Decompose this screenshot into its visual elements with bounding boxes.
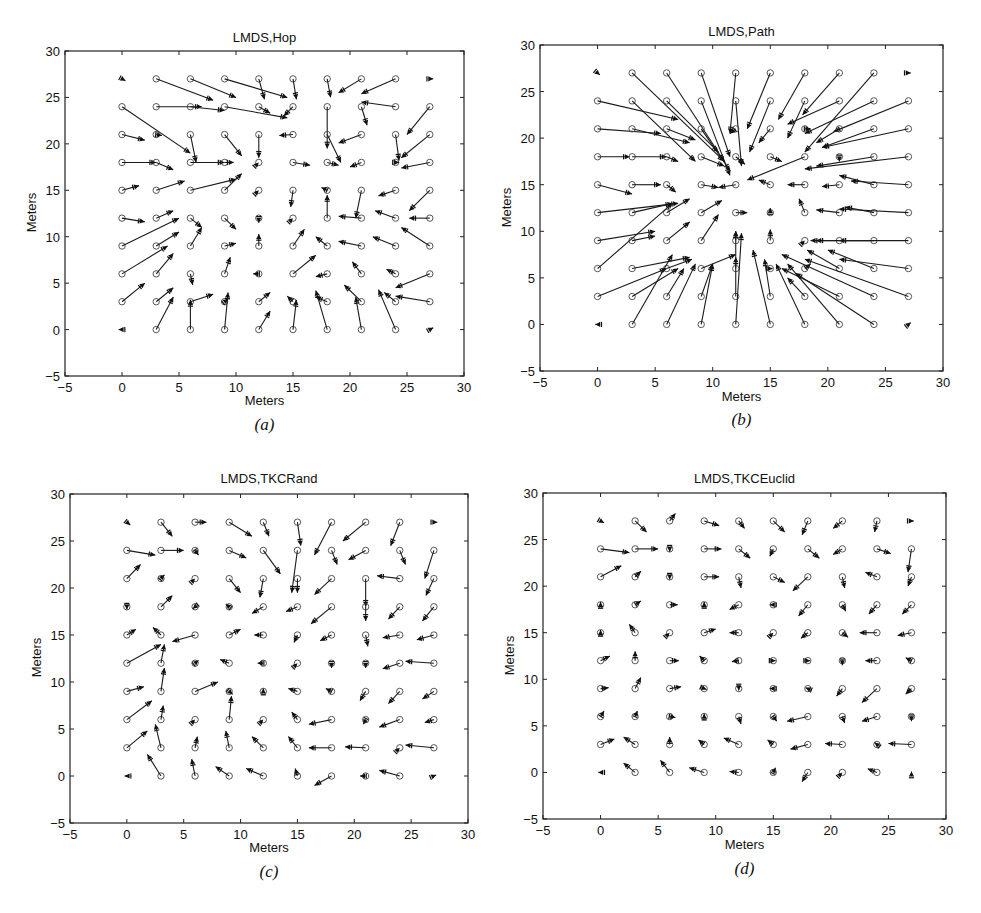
x-tick-label: 0 xyxy=(597,823,604,838)
arrowhead-icon xyxy=(841,583,846,588)
arrowhead-icon xyxy=(598,770,603,775)
y-tick-label: 20 xyxy=(524,579,538,594)
y-tick-label: 0 xyxy=(531,765,538,780)
x-tick-label: 15 xyxy=(766,823,780,838)
x-tick-label: 20 xyxy=(824,823,838,838)
arrowhead-icon xyxy=(737,583,742,588)
panel-d-plot: −5051015202530−5051015202530 xyxy=(0,0,981,913)
arrowhead-icon xyxy=(791,745,797,750)
arrowhead-icon xyxy=(598,630,603,635)
x-tick-label: 30 xyxy=(939,823,953,838)
arrowhead-icon xyxy=(909,771,914,776)
arrowhead-icon xyxy=(730,769,735,774)
arrowhead-icon xyxy=(873,527,878,532)
arrowhead-icon xyxy=(716,546,721,551)
arrowhead-icon xyxy=(667,547,672,552)
arrowhead-icon xyxy=(898,632,903,637)
x-tick-label: 25 xyxy=(881,823,895,838)
arrowhead-icon xyxy=(702,714,707,719)
arrowhead-icon xyxy=(888,741,893,746)
arrowhead-icon xyxy=(771,658,776,663)
arrowhead-icon xyxy=(676,685,681,690)
axes-frame xyxy=(543,493,946,819)
arrowhead-icon xyxy=(730,630,735,635)
error-vectors xyxy=(597,513,914,781)
x-tick-label: 10 xyxy=(708,823,722,838)
arrowhead-icon xyxy=(673,602,678,607)
arrowhead-icon xyxy=(885,549,891,554)
panel-d-sublabel: (d) xyxy=(543,859,946,879)
arrowhead-icon xyxy=(667,737,672,742)
arrowhead-icon xyxy=(714,574,719,579)
arrowhead-icon xyxy=(909,518,914,523)
arrowhead-icon xyxy=(736,685,741,690)
y-tick-label: −5 xyxy=(523,812,538,827)
panel-d: LMDS,TKCEuclid −5051015202530−5051015202… xyxy=(0,0,981,913)
y-tick-label: 5 xyxy=(531,719,538,734)
arrowhead-icon xyxy=(667,575,672,580)
arrowhead-icon xyxy=(674,658,679,663)
arrowhead-icon xyxy=(906,567,911,572)
y-tick-label: 10 xyxy=(524,672,538,687)
arrowhead-icon xyxy=(653,546,658,551)
arrowhead-icon xyxy=(865,658,870,663)
arrowhead-icon xyxy=(860,630,865,635)
y-tick-label: 30 xyxy=(524,486,538,501)
arrowhead-icon xyxy=(732,658,737,663)
arrowhead-icon xyxy=(598,602,603,607)
panel-d-xlabel: Meters xyxy=(543,837,946,852)
arrowhead-icon xyxy=(825,741,830,746)
y-tick-label: 25 xyxy=(524,533,538,548)
arrowhead-icon xyxy=(787,718,792,723)
panel-d-ylabel: Meters xyxy=(502,636,517,676)
arrowhead-icon xyxy=(702,602,707,607)
arrowhead-icon xyxy=(805,658,810,663)
arrowhead-icon xyxy=(633,651,638,656)
x-tick-label: 5 xyxy=(655,823,662,838)
y-tick-label: 15 xyxy=(524,626,538,641)
